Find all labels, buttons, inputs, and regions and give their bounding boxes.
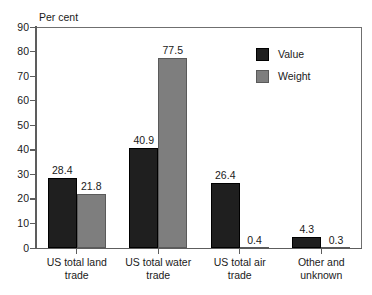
y-axis-title: Per cent [39, 11, 78, 23]
y-axis-tick-label: 30 [0, 169, 29, 179]
category-label-line: US total land [36, 256, 118, 269]
x-axis-tick [158, 248, 159, 254]
y-axis-tick-label: 50 [0, 120, 29, 130]
y-axis-tick [30, 125, 36, 126]
y-axis-tick [30, 223, 36, 224]
y-axis-tick [30, 100, 36, 101]
x-axis-tick [76, 248, 77, 254]
y-axis-tick [30, 248, 36, 249]
legend-item-value[interactable]: Value [256, 43, 311, 65]
y-axis-tick-label: 80 [0, 46, 29, 56]
legend: Value Weight [256, 43, 311, 87]
legend-swatch-weight-icon [256, 70, 269, 83]
legend-swatch-value-icon [256, 48, 269, 61]
bar-value-label: 26.4 [205, 170, 245, 181]
y-axis-tick-label: 60 [0, 95, 29, 105]
bar-weight [158, 58, 187, 248]
bar-value [129, 148, 158, 248]
x-axis-tick [239, 248, 240, 254]
y-axis-tick [30, 149, 36, 150]
category-label-line: trade [36, 269, 118, 282]
category-label-line: trade [118, 269, 200, 282]
legend-label-value: Value [278, 48, 304, 60]
y-axis-tick [30, 76, 36, 77]
category-label-line: trade [199, 269, 281, 282]
category-label-line: Other and [281, 256, 363, 269]
x-axis-tick [321, 248, 322, 254]
legend-label-weight: Weight [278, 70, 311, 82]
bar-value [292, 237, 321, 248]
bar-weight [240, 247, 269, 249]
bar-value [211, 183, 240, 248]
x-axis-category-label: US total airtrade [199, 256, 281, 281]
category-label-line: US total water [118, 256, 200, 269]
y-axis-tick-label: 70 [0, 71, 29, 81]
bar-weight [321, 247, 350, 249]
y-axis-tick [30, 51, 36, 52]
legend-item-weight[interactable]: Weight [256, 65, 311, 87]
y-axis-tick-label: 0 [0, 243, 29, 253]
category-label-line: unknown [281, 269, 363, 282]
category-label-line: US total air [199, 256, 281, 269]
y-axis-tick-label: 20 [0, 193, 29, 203]
bar-weight [77, 194, 106, 248]
bar-value-label: 4.3 [287, 224, 327, 235]
bar-chart: Per cent 9080706050403020100 28.421.840.… [0, 0, 372, 295]
y-axis-tick-label: 10 [0, 218, 29, 228]
x-axis-category-label: Other andunknown [281, 256, 363, 281]
bar-weight-label: 21.8 [71, 181, 111, 192]
bar-weight-label: 0.4 [247, 235, 287, 246]
y-axis-tick-label: 90 [0, 22, 29, 32]
y-axis-tick [30, 174, 36, 175]
bar-value-label: 28.4 [42, 165, 82, 176]
y-axis-tick-label: 40 [0, 144, 29, 154]
y-axis-tick [30, 198, 36, 199]
y-axis-line [35, 26, 37, 249]
bar-weight-label: 0.3 [329, 235, 369, 246]
bar-weight-label: 77.5 [153, 45, 193, 56]
y-axis-tick [30, 27, 36, 28]
x-axis-category-label: US total watertrade [118, 256, 200, 281]
x-axis-category-label: US total landtrade [36, 256, 118, 281]
